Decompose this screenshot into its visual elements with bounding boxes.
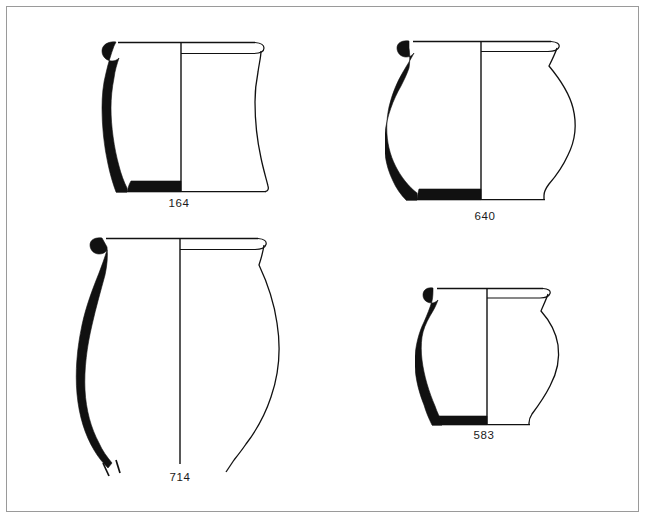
vessel-label-714: 714: [170, 471, 191, 483]
exterior-profile-583: [529, 294, 559, 425]
rim-roll-583: [487, 289, 550, 299]
vessel-figure-583: [415, 282, 575, 432]
vessel-figure-164: [95, 32, 285, 202]
section-wall-640: [385, 41, 417, 200]
rim-roll-714: [180, 239, 266, 250]
caption-wrap-164: 164: [119, 193, 239, 211]
vessel-label-583: 583: [474, 429, 495, 441]
vessel-label-164: 164: [169, 197, 190, 209]
caption-wrap-714: 714: [120, 467, 240, 485]
vessel-drawing-640: [385, 34, 580, 209]
section-wall-164: [102, 42, 127, 192]
vessel-figure-714: [70, 232, 285, 477]
vessel-drawing-583: [415, 282, 575, 432]
vessel-drawing-714: [70, 232, 285, 477]
vessel-label-640: 640: [475, 210, 496, 222]
pottery-profile-plate: 164 640 714: [0, 0, 648, 527]
vessel-drawing-164: [95, 32, 285, 202]
caption-wrap-583: 583: [424, 425, 544, 443]
exterior-profile-164: [255, 51, 268, 192]
vessel-figure-640: [385, 34, 580, 209]
rim-roll-640: [481, 42, 559, 52]
caption-wrap-640: 640: [425, 206, 545, 224]
exterior-profile-640: [544, 48, 575, 200]
section-wall-583: [415, 288, 442, 425]
section-wall-714: [76, 238, 112, 468]
exterior-profile-714: [234, 245, 279, 460]
rim-roll-164: [181, 43, 264, 54]
